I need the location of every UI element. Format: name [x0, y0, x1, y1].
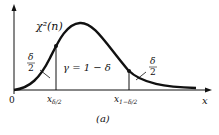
- chi-square-diagram: χ²(n) γ = 1 − δ δ 2 δ 2 0 x xδ/2 x1−δ/2 …: [0, 0, 219, 135]
- figure-caption: (a): [96, 113, 110, 124]
- origin-label: 0: [9, 95, 15, 105]
- right-tail-num: δ: [150, 56, 155, 66]
- left-quantile-label: xδ/2: [47, 94, 62, 105]
- curve-label: χ²(n): [35, 20, 63, 33]
- x-axis-arrow-icon: [205, 88, 212, 93]
- left-tail-num: δ: [28, 52, 33, 62]
- gamma-label: γ = 1 − δ: [63, 62, 111, 73]
- y-axis-arrow-icon: [12, 4, 17, 11]
- left-tail-den: 2: [28, 63, 34, 73]
- left-quantile-point: [54, 44, 58, 48]
- density-curve: [14, 23, 196, 90]
- right-tail-den: 2: [150, 67, 156, 77]
- right-quantile-subscript: 1−δ/2: [119, 98, 137, 105]
- left-quantile-subscript: δ/2: [52, 98, 62, 105]
- x-axis-label: x: [202, 95, 208, 106]
- right-quantile-label: x1−δ/2: [114, 94, 138, 105]
- right-quantile-point: [127, 69, 131, 73]
